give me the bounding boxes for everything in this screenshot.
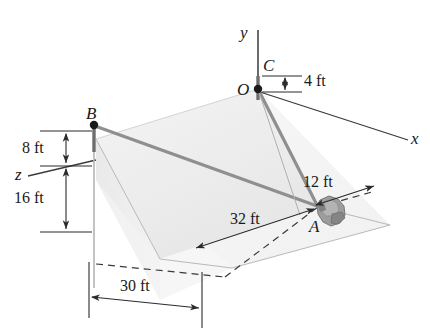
dim-16ft-group (40, 169, 92, 232)
point-label-O: O (237, 81, 249, 98)
dot-O (254, 85, 262, 93)
dim-label-12ft: 12 ft (303, 174, 333, 190)
dim-label-8ft: 8 ft (22, 140, 44, 156)
point-label-B: B (86, 105, 96, 122)
dim-label-4ft: 4 ft (304, 73, 326, 89)
figure-canvas (0, 0, 430, 334)
z-axis-line (28, 160, 96, 176)
dim-4ft-group (262, 76, 302, 92)
dim-label-30ft: 30 ft (120, 278, 150, 294)
dim-label-16ft: 16 ft (14, 190, 44, 206)
axis-label-x: x (411, 130, 419, 147)
axis-label-y: y (240, 24, 248, 41)
point-label-A: A (309, 218, 319, 235)
point-label-C: C (263, 57, 274, 74)
statics-figure: y x z O C B A 4 ft 8 ft 16 ft 12 ft 32 f… (0, 0, 430, 334)
dim-arrow-30ft (92, 297, 199, 308)
axis-label-z: z (15, 166, 22, 183)
dim-8ft-group (40, 131, 92, 166)
dim-label-32ft: 32 ft (230, 211, 260, 227)
